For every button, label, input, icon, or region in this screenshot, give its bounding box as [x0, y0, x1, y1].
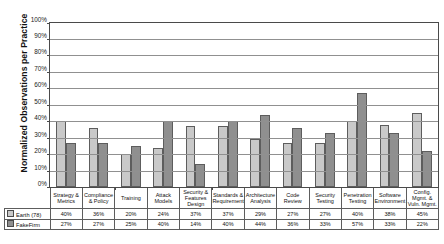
data-cell: 27% — [309, 209, 341, 220]
category-header-cell: Security &FeaturesDesign — [180, 188, 212, 209]
y-axis-tick-label: 0% — [38, 180, 47, 187]
data-cell: 40% — [147, 219, 179, 230]
grid-line — [50, 55, 438, 56]
y-axis-tick-label: 90% — [34, 31, 47, 38]
y-axis-tick-mark — [47, 39, 50, 40]
y-axis-tick-label: 10% — [34, 163, 47, 170]
data-cell: 14% — [180, 219, 212, 230]
y-axis-tick-mark — [47, 138, 50, 139]
bar — [380, 125, 390, 188]
category-label-line: Testing — [342, 198, 373, 204]
data-cell: 36% — [277, 219, 309, 230]
y-axis-tick-mark — [47, 121, 50, 122]
category-header-cell: Standards &Requirements — [212, 188, 244, 209]
data-table: Strategy &MetricsCompliance& PolicyTrain… — [4, 188, 439, 230]
category-label-line: Testing — [310, 198, 341, 204]
table-row: Earth (78)40%36%20%24%37%37%29%27%27%40%… — [5, 209, 439, 220]
bar — [422, 151, 432, 187]
data-cell: 29% — [244, 209, 276, 220]
category-label-line: Config. Mgmt. & — [407, 189, 438, 201]
data-cell: 40% — [50, 209, 82, 220]
legend-item-earth[interactable]: Earth (78) — [5, 209, 51, 220]
grid-line — [50, 154, 438, 155]
data-cell: 36% — [82, 209, 114, 220]
plot-area — [49, 22, 439, 189]
category-header-cell: SoftwareEnvironment — [374, 188, 406, 209]
bar — [98, 143, 108, 187]
data-cell: 37% — [212, 209, 244, 220]
bar — [260, 115, 270, 187]
y-axis-tick-label: 50% — [34, 97, 47, 104]
y-axis-tick-mark — [47, 105, 50, 106]
y-axis-tick-mark — [47, 171, 50, 172]
data-cell: 38% — [374, 209, 406, 220]
data-cell: 27% — [50, 219, 82, 230]
grid-line — [50, 138, 438, 139]
grid-line — [50, 171, 438, 172]
grid-line — [50, 39, 438, 40]
bar — [66, 143, 76, 187]
category-header-cell: Config. Mgmt. &Vuln. Mgmt. — [406, 188, 438, 209]
data-cell: 40% — [341, 209, 373, 220]
grid-line — [50, 121, 438, 122]
bar — [315, 143, 325, 187]
y-axis-tick-label: 40% — [34, 114, 47, 121]
grid-line — [50, 105, 438, 106]
category-header-cell: AttackModels — [147, 188, 179, 209]
data-cell: 57% — [341, 219, 373, 230]
y-axis-tick-label: 100% — [31, 15, 47, 22]
category-header-cell: Compliance& Policy — [82, 188, 114, 209]
category-label-line: Analysis — [245, 198, 276, 204]
legend-swatch-icon — [7, 210, 14, 217]
category-label-line: Design — [180, 201, 211, 207]
y-axis-tick-label: 20% — [34, 147, 47, 154]
bar — [195, 164, 205, 187]
chart-container: Normalized Observations per Practice 100… — [0, 0, 444, 244]
y-axis-tick-mark — [47, 154, 50, 155]
legend-item-fakefirm[interactable]: FakeFirm — [5, 219, 51, 230]
y-axis-tick-label: 30% — [34, 130, 47, 137]
data-cell: 20% — [115, 209, 147, 220]
category-header-cell: Strategy &Metrics — [50, 188, 82, 209]
legend-label: Earth (78) — [16, 211, 41, 217]
category-header-cell: Training — [115, 188, 147, 209]
data-table-body: Strategy &MetricsCompliance& PolicyTrain… — [5, 188, 439, 230]
bar — [283, 143, 293, 187]
category-label-line: Training — [115, 195, 146, 201]
legend-swatch-icon — [7, 220, 14, 227]
category-label-line: Review — [277, 198, 308, 204]
category-header-cell: CodeReview — [277, 188, 309, 209]
category-label-line: Metrics — [51, 198, 82, 204]
data-cell: 22% — [406, 219, 438, 230]
table-corner-cell — [5, 188, 51, 209]
table-row: FakeFirm27%27%25%40%14%40%44%36%33%57%33… — [5, 219, 439, 230]
y-axis-tick-mark — [47, 88, 50, 89]
data-cell: 44% — [244, 219, 276, 230]
data-cell: 45% — [406, 209, 438, 220]
bar — [389, 133, 399, 187]
data-cell: 33% — [309, 219, 341, 230]
category-label-line: Environment — [374, 198, 405, 204]
data-cell: 27% — [82, 219, 114, 230]
category-label-line: & Policy — [83, 198, 114, 204]
bar — [131, 146, 141, 187]
bar — [186, 126, 196, 187]
y-axis-tick-mark — [47, 72, 50, 73]
category-label-line: Security & — [180, 189, 211, 195]
grid-line — [50, 72, 438, 73]
y-axis-tick-labels: 100%90%80%70%60%50%40%30%20%10%0% — [20, 18, 47, 192]
data-cell: 37% — [180, 209, 212, 220]
category-header-cell: SecurityTesting — [309, 188, 341, 209]
category-label-line: Vuln. Mgmt. — [407, 201, 438, 207]
category-header-cell: ArchitectureAnalysis — [244, 188, 276, 209]
y-axis-tick-label: 70% — [34, 64, 47, 71]
data-cell: 27% — [277, 209, 309, 220]
category-header-cell: PenetrationTesting — [341, 188, 373, 209]
grid-line — [50, 88, 438, 89]
bar — [325, 133, 335, 187]
data-cell: 24% — [147, 209, 179, 220]
category-label-line: Requirements — [212, 198, 243, 204]
legend-label: FakeFirm — [16, 222, 40, 228]
bar — [357, 93, 367, 187]
data-cell: 25% — [115, 219, 147, 230]
